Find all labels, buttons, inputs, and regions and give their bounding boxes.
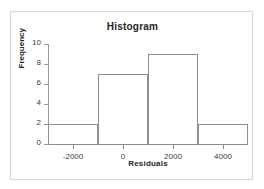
x-tick-mark bbox=[223, 144, 224, 149]
histogram-bar bbox=[98, 74, 148, 144]
y-tick-mark bbox=[44, 104, 49, 105]
y-tick: 8 bbox=[48, 64, 49, 65]
y-axis-title: Frequency bbox=[17, 57, 26, 69]
chart-title: Histogram bbox=[11, 21, 254, 32]
x-axis-title: Residuals bbox=[48, 159, 248, 168]
y-tick-mark bbox=[44, 144, 49, 145]
histogram-bar bbox=[48, 124, 98, 144]
x-tick-mark bbox=[173, 144, 174, 149]
y-tick-mark bbox=[44, 64, 49, 65]
y-tick: 10 bbox=[48, 44, 49, 45]
x-tick-mark bbox=[123, 144, 124, 149]
histogram-bar bbox=[148, 54, 198, 144]
y-axis-title-label: Frequency bbox=[17, 57, 26, 69]
x-tick-mark bbox=[73, 144, 74, 149]
y-tick-mark bbox=[44, 84, 49, 85]
chart-figure: Histogram Frequency 0246810 -20000200040… bbox=[10, 11, 253, 180]
y-tick-label: 4 bbox=[37, 98, 41, 107]
y-tick-label: 10 bbox=[32, 38, 41, 47]
histogram-bar bbox=[198, 124, 248, 144]
y-tick: 0 bbox=[48, 144, 49, 145]
y-tick: 4 bbox=[48, 104, 49, 105]
y-tick-label: 0 bbox=[37, 138, 41, 147]
x-axis-line bbox=[48, 144, 248, 145]
y-tick-mark bbox=[44, 44, 49, 45]
y-tick-label: 6 bbox=[37, 78, 41, 87]
y-tick-label: 8 bbox=[37, 58, 41, 67]
y-tick: 6 bbox=[48, 84, 49, 85]
plot-area: 0246810 -2000020004000 bbox=[48, 44, 248, 144]
y-tick-label: 2 bbox=[37, 118, 41, 127]
